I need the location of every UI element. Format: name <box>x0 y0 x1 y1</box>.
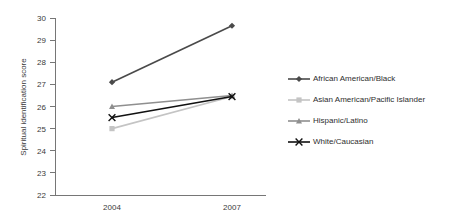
legend-label: Asian American/Pacific Islander <box>313 95 425 104</box>
x-axis-ticks: 20042007 <box>103 203 241 212</box>
y-tick-label: 25 <box>37 125 46 134</box>
series-line <box>112 97 232 118</box>
data-point-marker <box>229 23 235 29</box>
data-point-marker <box>296 76 302 82</box>
legend-label: White/Caucasian <box>313 137 373 146</box>
legend-item: Asian American/Pacific Islander <box>288 95 425 104</box>
y-tick-label: 30 <box>37 14 46 23</box>
legend-item: African American/Black <box>288 74 396 83</box>
x-tick-label: 2004 <box>103 203 121 212</box>
y-tick-label: 26 <box>37 103 46 112</box>
data-series-group <box>109 23 236 132</box>
legend-label: African American/Black <box>313 74 396 83</box>
y-axis-title: Spiritual identification score <box>19 58 28 156</box>
y-tick-label: 24 <box>37 147 46 156</box>
data-series <box>109 23 235 86</box>
y-tick-label: 27 <box>37 80 46 89</box>
line-chart: 222324252627282930 20042007 Spiritual id… <box>0 0 459 220</box>
data-point-marker <box>109 79 115 85</box>
legend-item: White/Caucasian <box>288 137 373 146</box>
axes <box>55 18 266 195</box>
x-tick-label: 2007 <box>223 203 241 212</box>
data-point-marker <box>296 97 301 102</box>
chart-legend: African American/BlackAsian American/Pac… <box>288 74 425 146</box>
legend-label: Hispanic/Latino <box>313 116 368 125</box>
y-axis-ticks: 222324252627282930 <box>37 14 55 200</box>
chart-figure: 222324252627282930 20042007 Spiritual id… <box>0 0 459 220</box>
y-tick-label: 28 <box>37 58 46 67</box>
series-line <box>112 26 232 82</box>
y-tick-label: 23 <box>37 169 46 178</box>
data-point-marker <box>109 126 114 131</box>
y-tick-label: 22 <box>37 191 46 200</box>
y-tick-label: 29 <box>37 36 46 45</box>
legend-item: Hispanic/Latino <box>288 116 368 125</box>
